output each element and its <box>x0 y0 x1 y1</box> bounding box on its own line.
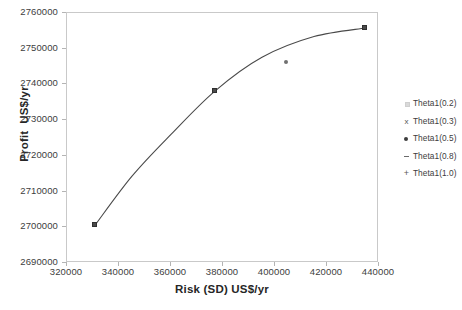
data-point-square-marker <box>92 222 97 227</box>
legend-label: Theta1(0.2) <box>413 98 456 109</box>
y-tick-label: 2700000 <box>0 220 58 231</box>
dash-marker-icon <box>401 151 412 162</box>
data-point-square-marker <box>212 88 217 93</box>
legend-label: Theta1(0.5) <box>413 133 456 144</box>
x-tick-label: 360000 <box>140 266 200 277</box>
legend-item[interactable]: Theta1(0.8) <box>401 148 462 166</box>
y-tick-label: 2720000 <box>0 149 58 160</box>
legend-item[interactable]: xTheta1(0.3) <box>401 113 462 131</box>
data-point-dot-marker <box>284 60 288 64</box>
y-tick-label: 2710000 <box>0 185 58 196</box>
legend-item[interactable]: Theta1(0.5) <box>401 130 462 148</box>
x-tick-label: 440000 <box>348 266 408 277</box>
chart-container: Profit US$/yr Risk (SD) US$/yr 269000027… <box>0 0 462 310</box>
dot-marker-icon <box>401 133 412 144</box>
x-axis-title: Risk (SD) US$/yr <box>0 283 444 295</box>
legend-label: Theta1(1.0) <box>413 168 456 179</box>
y-tick-label: 2760000 <box>0 6 58 17</box>
x-tick-label: 400000 <box>244 266 304 277</box>
cross-marker-icon: x <box>401 116 412 127</box>
x-tick-label: 420000 <box>296 266 356 277</box>
legend-item[interactable]: +Theta1(1.0) <box>401 165 462 183</box>
square-marker-icon <box>401 98 412 109</box>
x-tick-label: 380000 <box>192 266 252 277</box>
legend-label: Theta1(0.3) <box>413 116 456 127</box>
x-tick-label: 320000 <box>36 266 96 277</box>
plot-svg <box>67 13 379 263</box>
plot-area <box>66 12 378 262</box>
data-point-square-marker <box>362 25 367 30</box>
legend-item[interactable]: Theta1(0.2) <box>401 95 462 113</box>
x-tick-label: 340000 <box>88 266 148 277</box>
plus-marker-icon: + <box>401 168 412 179</box>
y-tick-label: 2730000 <box>0 113 58 124</box>
y-tick-label: 2740000 <box>0 77 58 88</box>
legend-label: Theta1(0.8) <box>413 151 456 162</box>
chart-legend: Theta1(0.2)xTheta1(0.3)Theta1(0.5)Theta1… <box>401 95 462 183</box>
y-tick-label: 2750000 <box>0 42 58 53</box>
trend-curve <box>95 28 365 225</box>
